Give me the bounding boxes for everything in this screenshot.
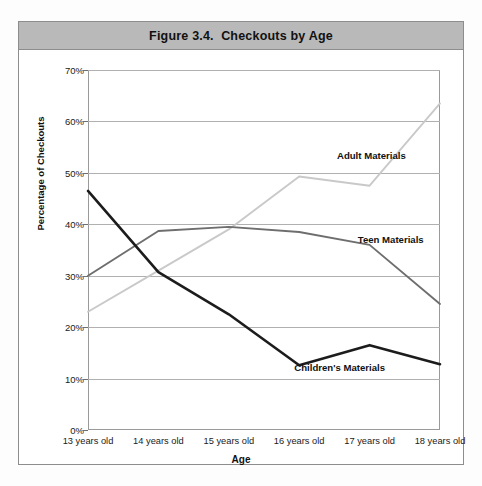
series-label: Adult Materials — [337, 149, 406, 160]
figure-root: Figure 3.4. Checkouts by Age Percentage … — [0, 0, 482, 486]
series-label: Teen Materials — [358, 234, 424, 245]
series-label: Children's Materials — [294, 362, 385, 373]
series-lines — [88, 70, 440, 430]
page-title: Figure 3.4. Checkouts by Age — [149, 29, 333, 43]
x-axis-tick-label: 13 years old — [63, 436, 114, 446]
x-axis-tick-label: 14 years old — [133, 436, 184, 446]
x-axis-tick-label: 15 years old — [203, 436, 254, 446]
series-line — [88, 191, 440, 365]
chart-area: Percentage of Checkouts 0%10%20%30%40%50… — [18, 50, 464, 465]
x-axis-tick-label: 17 years old — [344, 436, 395, 446]
y-axis-tick-mark — [83, 430, 88, 431]
y-axis-tick-label: 60% — [65, 116, 84, 127]
y-axis-tick-label: 70% — [65, 65, 84, 76]
y-axis-tick-label: 10% — [65, 373, 84, 384]
x-axis-tick-label: 16 years old — [274, 436, 325, 446]
figure-title-band: Figure 3.4. Checkouts by Age — [18, 21, 464, 50]
y-axis-tick-label: 0% — [70, 425, 84, 436]
y-axis-tick-label: 20% — [65, 322, 84, 333]
series-line — [88, 103, 440, 311]
plot-region — [88, 70, 440, 430]
y-axis-tick-labels: 0%10%20%30%40%50%60%70% — [40, 70, 84, 430]
y-axis-tick-label: 30% — [65, 270, 84, 281]
y-axis-tick-label: 40% — [65, 219, 84, 230]
y-axis-tick-label: 50% — [65, 167, 84, 178]
x-axis-title: Age — [18, 454, 464, 465]
x-axis-tick-label: 18 years old — [415, 436, 466, 446]
